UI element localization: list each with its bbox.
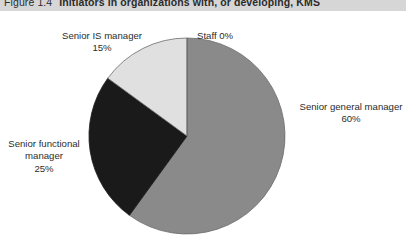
pie-label-senior-is-manager-percent: 15% [46, 42, 158, 54]
pie-label-senior-general-manager: Senior general manager 60% [297, 101, 405, 126]
pie-label-staff: Staff 0% [197, 30, 233, 42]
pie-label-senior-functional-manager-percent: 25% [0, 163, 88, 175]
chart-plot-area: Staff 0% Senior IS manager 15% Senior ge… [0, 11, 406, 236]
pie-label-senior-general-manager-text: Senior general manager [300, 101, 403, 112]
pie-label-staff-text: Staff 0% [197, 30, 233, 41]
pie-label-senior-functional-manager-line1: Senior functional [8, 138, 79, 149]
pie-label-senior-is-manager: Senior IS manager 15% [46, 30, 158, 55]
pie-label-senior-functional-manager: Senior functional manager 25% [0, 138, 88, 175]
pie-label-senior-is-manager-text: Senior IS manager [62, 30, 142, 41]
pie-label-senior-functional-manager-line2: manager [0, 150, 88, 162]
figure-container: Figure 1.4Initiators in organizations wi… [0, 0, 406, 236]
pie-label-senior-general-manager-percent: 60% [297, 113, 405, 125]
